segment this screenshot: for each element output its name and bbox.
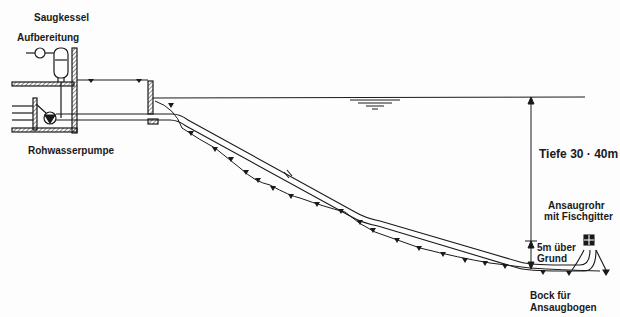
rohwasserpumpe-pump <box>36 104 56 124</box>
lake-surface <box>153 97 585 109</box>
label-tiefe: Tiefe 30 · 40m <box>539 148 618 160</box>
label-ansaugrohr-2: mit Fischgitter <box>544 211 613 223</box>
label-grund-2: Grund <box>537 253 567 265</box>
intake-pipe <box>56 114 596 271</box>
label-rohwasserpumpe: Rohwasserpumpe <box>28 145 114 157</box>
lake-intake-cross-section <box>0 0 620 317</box>
label-aufbereitung: Aufbereitung <box>17 32 79 44</box>
diagram-canvas: Saugkessel Aufbereitung Rohwasserpumpe T… <box>0 0 620 317</box>
label-bock-2: Ansaugbogen <box>530 302 597 314</box>
bottom-hatch-marks <box>88 79 572 276</box>
label-bock-1: Bock für <box>530 290 571 302</box>
depth-dimension <box>525 97 537 269</box>
label-saugkessel: Saugkessel <box>34 12 89 24</box>
